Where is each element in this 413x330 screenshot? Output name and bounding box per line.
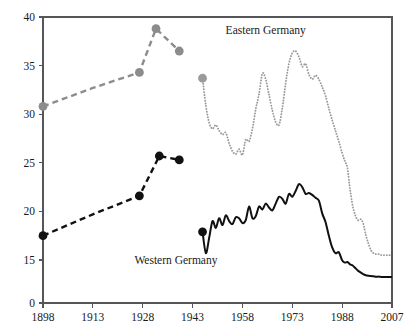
y-tick-label-0: 0 [29, 297, 35, 309]
germany-timeseries-chart: 0152025303540 18981913192819431958197319… [0, 0, 413, 330]
series-annotations: Eastern GermanyWestern Germany [134, 24, 306, 267]
x-tick-label-1943: 1943 [181, 311, 204, 323]
y-tick-label-40: 40 [24, 11, 36, 23]
x-tick-label-1988: 1988 [331, 311, 354, 323]
x-tick-label-1973: 1973 [281, 311, 304, 323]
data-point-marker [198, 74, 207, 83]
y-tick-label-20: 20 [24, 205, 36, 217]
x-tick-label-1958: 1958 [231, 311, 254, 323]
x-tick-label-1913: 1913 [81, 311, 104, 323]
x-axis-tick-labels: 18981913192819431958197319882007 [32, 311, 404, 323]
data-marker-layer [39, 24, 207, 240]
x-axis-ticks [43, 303, 392, 308]
data-point-marker [39, 102, 48, 111]
x-tick-label-2007: 2007 [381, 311, 404, 323]
data-point-marker [135, 191, 144, 200]
series-path-1 [43, 156, 179, 236]
series-path-0 [43, 29, 179, 107]
y-tick-label-30: 30 [24, 108, 36, 120]
data-point-marker [152, 24, 161, 33]
chart-container: 0152025303540 18981913192819431958197319… [0, 0, 413, 330]
data-point-marker [198, 227, 207, 236]
data-point-marker [175, 47, 184, 56]
data-point-marker [155, 152, 164, 161]
data-series-layer [43, 29, 392, 277]
y-tick-label-35: 35 [24, 60, 36, 72]
y-tick-label-25: 25 [24, 157, 36, 169]
data-point-marker [39, 231, 48, 240]
annotation-label-1: Western Germany [134, 254, 217, 267]
plot-frame [43, 17, 392, 303]
x-tick-label-1928: 1928 [131, 311, 154, 323]
y-axis-ticks [39, 17, 43, 303]
y-tick-label-15: 15 [24, 254, 36, 266]
data-point-marker [135, 68, 144, 77]
data-point-marker [175, 155, 184, 164]
y-axis-tick-labels: 0152025303540 [24, 11, 36, 309]
series-path-3 [203, 184, 392, 277]
x-tick-label-1898: 1898 [32, 311, 55, 323]
annotation-label-0: Eastern Germany [226, 24, 306, 37]
